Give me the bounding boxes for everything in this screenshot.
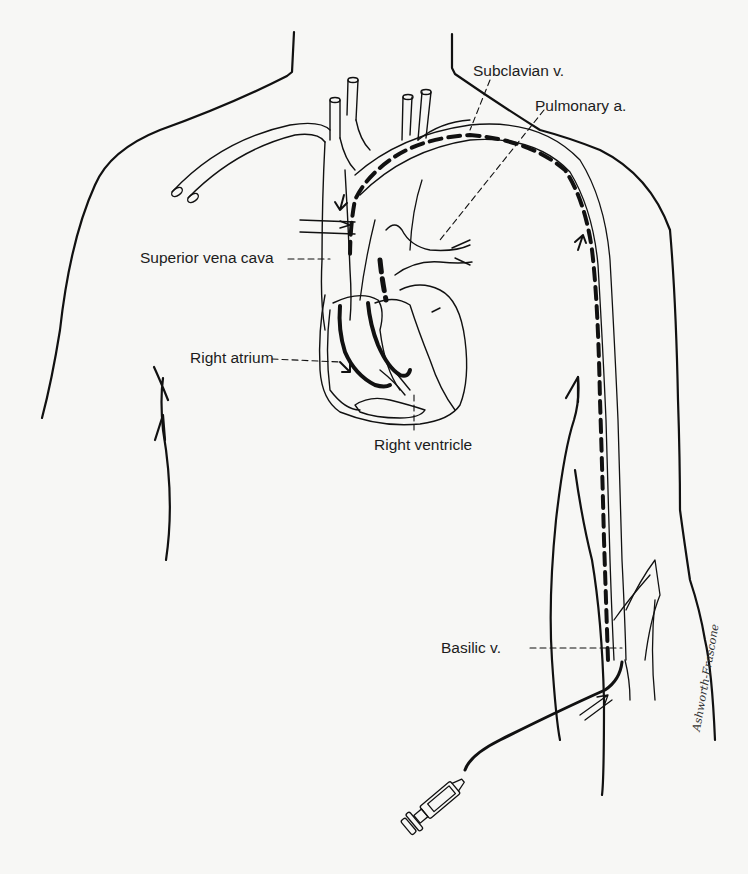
- catheter-tube: [465, 662, 622, 770]
- label-right-ventricle: Right ventricle: [374, 437, 472, 453]
- label-subclavian-vein: Subclavian v.: [473, 63, 564, 79]
- label-pulmonary-artery: Pulmonary a.: [535, 98, 626, 114]
- label-superior-vena-cava: Superior vena cava: [140, 250, 274, 266]
- vein-path: [355, 120, 626, 660]
- diagram-canvas: Subclavian v. Pulmonary a. Superior vena…: [0, 0, 748, 874]
- flow-arrows: [335, 195, 586, 372]
- label-right-atrium: Right atrium: [190, 350, 274, 366]
- left-subclavian-vessels: [170, 123, 330, 204]
- pulmonary-artery: [300, 220, 472, 275]
- label-basilic-vein: Basilic v.: [441, 640, 501, 656]
- syringe-icon: [399, 772, 470, 836]
- forearm-vessels: [614, 560, 660, 700]
- catheter: [350, 135, 608, 660]
